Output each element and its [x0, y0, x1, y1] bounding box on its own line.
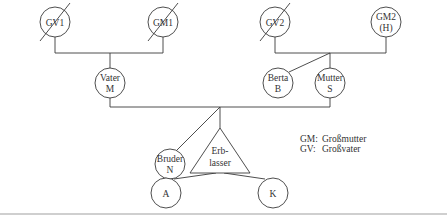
node-k: K — [258, 178, 288, 208]
node-gv1: GV1 — [40, 3, 70, 41]
node-mutter-sublabel: S — [327, 84, 332, 94]
node-a: A — [151, 178, 181, 208]
node-vater-sublabel: M — [106, 84, 115, 94]
node-berta: Berta B — [263, 68, 293, 98]
node-gm1: GM1 — [148, 3, 178, 41]
node-gm2-sublabel: (H) — [379, 23, 392, 34]
bottom-divider — [0, 213, 447, 215]
legend-meaning-gm: Großmutter — [322, 134, 367, 144]
node-berta-label: Berta — [268, 73, 289, 83]
node-berta-sublabel: B — [275, 84, 281, 94]
node-erblasser-sublabel: lasser — [209, 158, 231, 168]
node-mutter: Mutter S — [315, 68, 345, 98]
node-mutter-label: Mutter — [317, 73, 344, 83]
legend-abbr-gv: GV: — [300, 144, 316, 154]
legend-abbr-gm: GM: — [300, 134, 318, 144]
node-a-label: A — [163, 189, 170, 199]
node-vater-label: Vater — [100, 73, 121, 83]
node-gm2-label: GM2 — [376, 12, 396, 22]
family-tree-diagram: GV1 GM1 GV2 GM2 (H) Vater M Berta B Mutt… — [0, 0, 447, 216]
edge-to-k — [224, 173, 265, 179]
node-erblasser: Erb- lasser — [190, 128, 250, 173]
legend-meaning-gv: Großvater — [322, 144, 361, 154]
node-bruder-sublabel: N — [167, 165, 174, 175]
node-bruder: Bruder N — [155, 149, 185, 179]
node-bruder-label: Bruder — [157, 154, 184, 164]
node-erblasser-label: Erb- — [212, 146, 229, 156]
node-gv2: GV2 — [260, 3, 290, 41]
node-k-label: K — [270, 189, 277, 199]
node-vater: Vater M — [95, 68, 125, 98]
legend: GM: Großmutter GV: Großvater — [300, 134, 367, 154]
node-gm2: GM2 (H) — [371, 7, 401, 37]
